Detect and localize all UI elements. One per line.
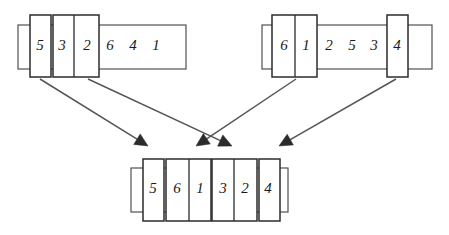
left-source-array-value-4: 4: [129, 37, 137, 53]
left-source-array-value-0: 5: [36, 37, 44, 53]
right-source-array-value-0: 6: [280, 37, 288, 53]
right-source-array-value-4: 3: [369, 37, 378, 53]
right-source-array-value-5: 4: [393, 37, 401, 53]
result-array-value-5: 4: [264, 180, 272, 196]
merge-diagram: 532641612534561324: [0, 0, 449, 235]
arrows-layer: [40, 79, 396, 146]
result-array-value-2: 1: [196, 180, 204, 196]
left-source-array-value-2: 2: [83, 37, 91, 53]
result-array-value-0: 5: [149, 180, 157, 196]
left-source-array-value-3: 6: [106, 37, 114, 53]
diagram-canvas: 532641612534561324: [0, 0, 449, 235]
right-source-array-value-2: 2: [325, 37, 333, 53]
result-array-value-1: 6: [173, 180, 181, 196]
arrow-right-61-to-result-61-shaft: [205, 79, 296, 140]
right-source-array-value-3: 5: [348, 37, 356, 53]
left-source-array-value-1: 3: [57, 37, 66, 53]
arrow-left-5-to-result-5-shaft: [40, 79, 139, 140]
result-array-value-4: 2: [241, 180, 249, 196]
arrow-left-32-to-result-32-shaft: [88, 79, 222, 141]
right-source-array-value-1: 1: [302, 37, 310, 53]
result-array-value-3: 3: [218, 180, 227, 196]
arrow-right-4-to-result-4-head: [279, 134, 293, 146]
arrow-right-4-to-result-4-shaft: [289, 79, 396, 141]
arrow-left-5-to-result-5-head: [134, 134, 148, 146]
left-source-array-value-5: 1: [152, 37, 160, 53]
